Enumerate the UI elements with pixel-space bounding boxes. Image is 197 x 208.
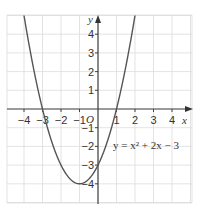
x-axis-label: x [181,114,187,126]
y-axis-label: y [87,13,93,25]
equation-label: y = x² + 2x − 3 [113,139,179,151]
y-tick-label: 4 [88,28,94,40]
x-tick-label: 4 [169,114,175,126]
y-tick-label: 1 [88,84,94,96]
y-tick-label: −3 [81,159,94,171]
origin-label: O [86,113,94,125]
y-tick-label: 3 [88,47,94,59]
y-tick-label: −2 [81,140,94,152]
parabola-graph: −4−3−2−112344321−1−2−3−4 y x O y = x² + … [0,0,197,208]
x-tick-label: −4 [18,114,31,126]
y-tick-label: 2 [88,66,94,78]
y-axis-arrow-icon [95,15,101,23]
x-tick-label: −2 [55,114,68,126]
x-tick-label: 3 [150,114,156,126]
x-tick-label: 2 [132,114,138,126]
axes [7,15,193,204]
